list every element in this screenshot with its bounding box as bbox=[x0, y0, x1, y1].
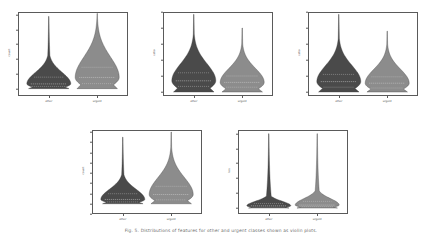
violin-shapes bbox=[92, 130, 202, 214]
y-axis-title: count bbox=[82, 165, 85, 177]
violin-other bbox=[247, 134, 291, 208]
x-tick-mark bbox=[242, 96, 243, 98]
violin-plot-figure: 010002000300040005000countotherurgent0.0… bbox=[0, 0, 442, 240]
violin-other bbox=[317, 14, 361, 92]
x-tick-label-urgent: urgent bbox=[83, 99, 111, 103]
x-tick-label-urgent: urgent bbox=[157, 217, 185, 221]
x-tick-mark bbox=[194, 96, 195, 98]
violin-shapes bbox=[308, 12, 418, 96]
x-tick-label-urgent: urgent bbox=[373, 99, 401, 103]
x-tick-label-urgent: urgent bbox=[228, 99, 256, 103]
x-tick-mark bbox=[123, 214, 124, 216]
y-axis-title: ratio bbox=[153, 47, 156, 59]
x-tick-mark bbox=[339, 96, 340, 98]
violin-shapes bbox=[238, 130, 348, 214]
x-tick-label-other: other bbox=[109, 217, 137, 221]
x-tick-mark bbox=[387, 96, 388, 98]
violin-urgent bbox=[295, 134, 339, 208]
x-tick-label-other: other bbox=[325, 99, 353, 103]
figure-caption: Fig. 5. Distributions of features for ot… bbox=[0, 228, 442, 234]
x-tick-mark bbox=[171, 214, 172, 216]
x-tick-label-other: other bbox=[35, 99, 63, 103]
x-tick-mark bbox=[97, 96, 98, 98]
violin-other bbox=[27, 16, 71, 88]
x-tick-label-urgent: urgent bbox=[303, 217, 331, 221]
x-tick-mark bbox=[269, 214, 270, 216]
violin-shapes bbox=[163, 12, 273, 96]
violin-urgent bbox=[365, 31, 409, 92]
y-axis-title: count bbox=[8, 47, 11, 59]
x-tick-label-other: other bbox=[180, 99, 208, 103]
violin-other bbox=[172, 14, 216, 92]
x-tick-mark bbox=[317, 214, 318, 216]
y-axis-title: len bbox=[228, 165, 231, 177]
y-axis-title: ratio bbox=[298, 47, 301, 59]
x-tick-label-other: other bbox=[255, 217, 283, 221]
x-tick-mark bbox=[49, 96, 50, 98]
violin-shapes bbox=[18, 12, 128, 96]
violin-urgent bbox=[149, 132, 193, 204]
